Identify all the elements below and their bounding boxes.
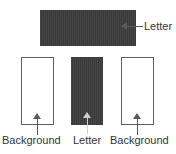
panel-label-background-right: Background (110, 134, 169, 147)
arrow-up-icon-letter-middle (83, 112, 92, 134)
letter-band-label: Letter (144, 20, 172, 32)
letter-background-diagram: Letter Background Letter Background (0, 0, 176, 154)
arrow-up-icon-background-left (33, 113, 42, 135)
letter-band-callout: Letter (121, 19, 172, 33)
panel-label-letter-middle: Letter (73, 134, 101, 147)
arrow-left-icon (121, 22, 143, 31)
arrow-up-icon-background-right (133, 113, 142, 135)
panel-label-background-left: Background (2, 134, 61, 147)
